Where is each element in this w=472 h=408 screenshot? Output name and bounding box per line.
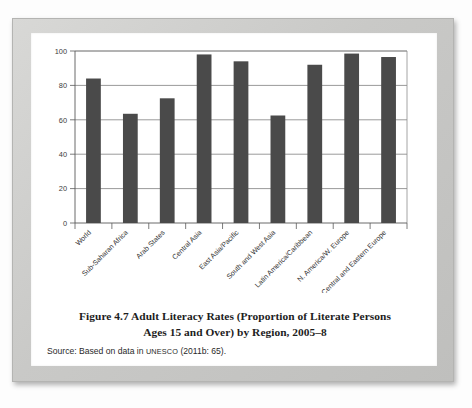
x-axis-category-label: World — [74, 229, 93, 248]
source-prefix: Source: Based on data in — [47, 346, 146, 356]
y-axis-tick-label: 80 — [59, 81, 67, 90]
y-axis-tick-label: 40 — [59, 150, 67, 159]
bar — [86, 79, 101, 223]
bar — [271, 116, 286, 224]
bar — [123, 114, 138, 223]
source-organization: UNESCO — [146, 347, 178, 356]
figure-caption: Figure 4.7 Adult Literacy Rates (Proport… — [45, 309, 425, 340]
y-axis-tick-label: 100 — [55, 47, 67, 56]
bar — [381, 57, 396, 223]
bar-chart: 020406080100WorldSub-Saharan AfricaArab … — [31, 37, 437, 293]
source-note: Source: Based on data in UNESCO (2011b: … — [45, 346, 425, 356]
bar — [344, 54, 359, 223]
x-axis-category-label: Central Asia — [171, 229, 204, 262]
caption-block: Figure 4.7 Adult Literacy Rates (Proport… — [45, 309, 425, 356]
bar — [307, 65, 322, 223]
x-axis-category-label: Arab States — [135, 228, 167, 260]
bar — [234, 61, 249, 223]
bar — [160, 98, 175, 223]
y-axis-tick-label: 0 — [63, 219, 67, 228]
figure-card: 020406080100WorldSub-Saharan AfricaArab … — [31, 33, 437, 366]
chart-canvas: 020406080100WorldSub-Saharan AfricaArab … — [31, 37, 419, 293]
caption-line-2: Ages 15 and Over) by Region, 2005–8 — [45, 325, 425, 341]
y-axis-tick-label: 20 — [59, 184, 67, 193]
caption-line-1: Figure 4.7 Adult Literacy Rates (Proport… — [79, 310, 391, 322]
scanned-page: 020406080100WorldSub-Saharan AfricaArab … — [0, 0, 472, 408]
y-axis-tick-label: 60 — [59, 116, 67, 125]
source-suffix: (2011b: 65). — [178, 346, 226, 356]
bar — [197, 54, 212, 223]
x-axis-category-label: Central and Eastern Europe — [320, 229, 388, 293]
figure-frame: 020406080100WorldSub-Saharan AfricaArab … — [12, 18, 454, 382]
